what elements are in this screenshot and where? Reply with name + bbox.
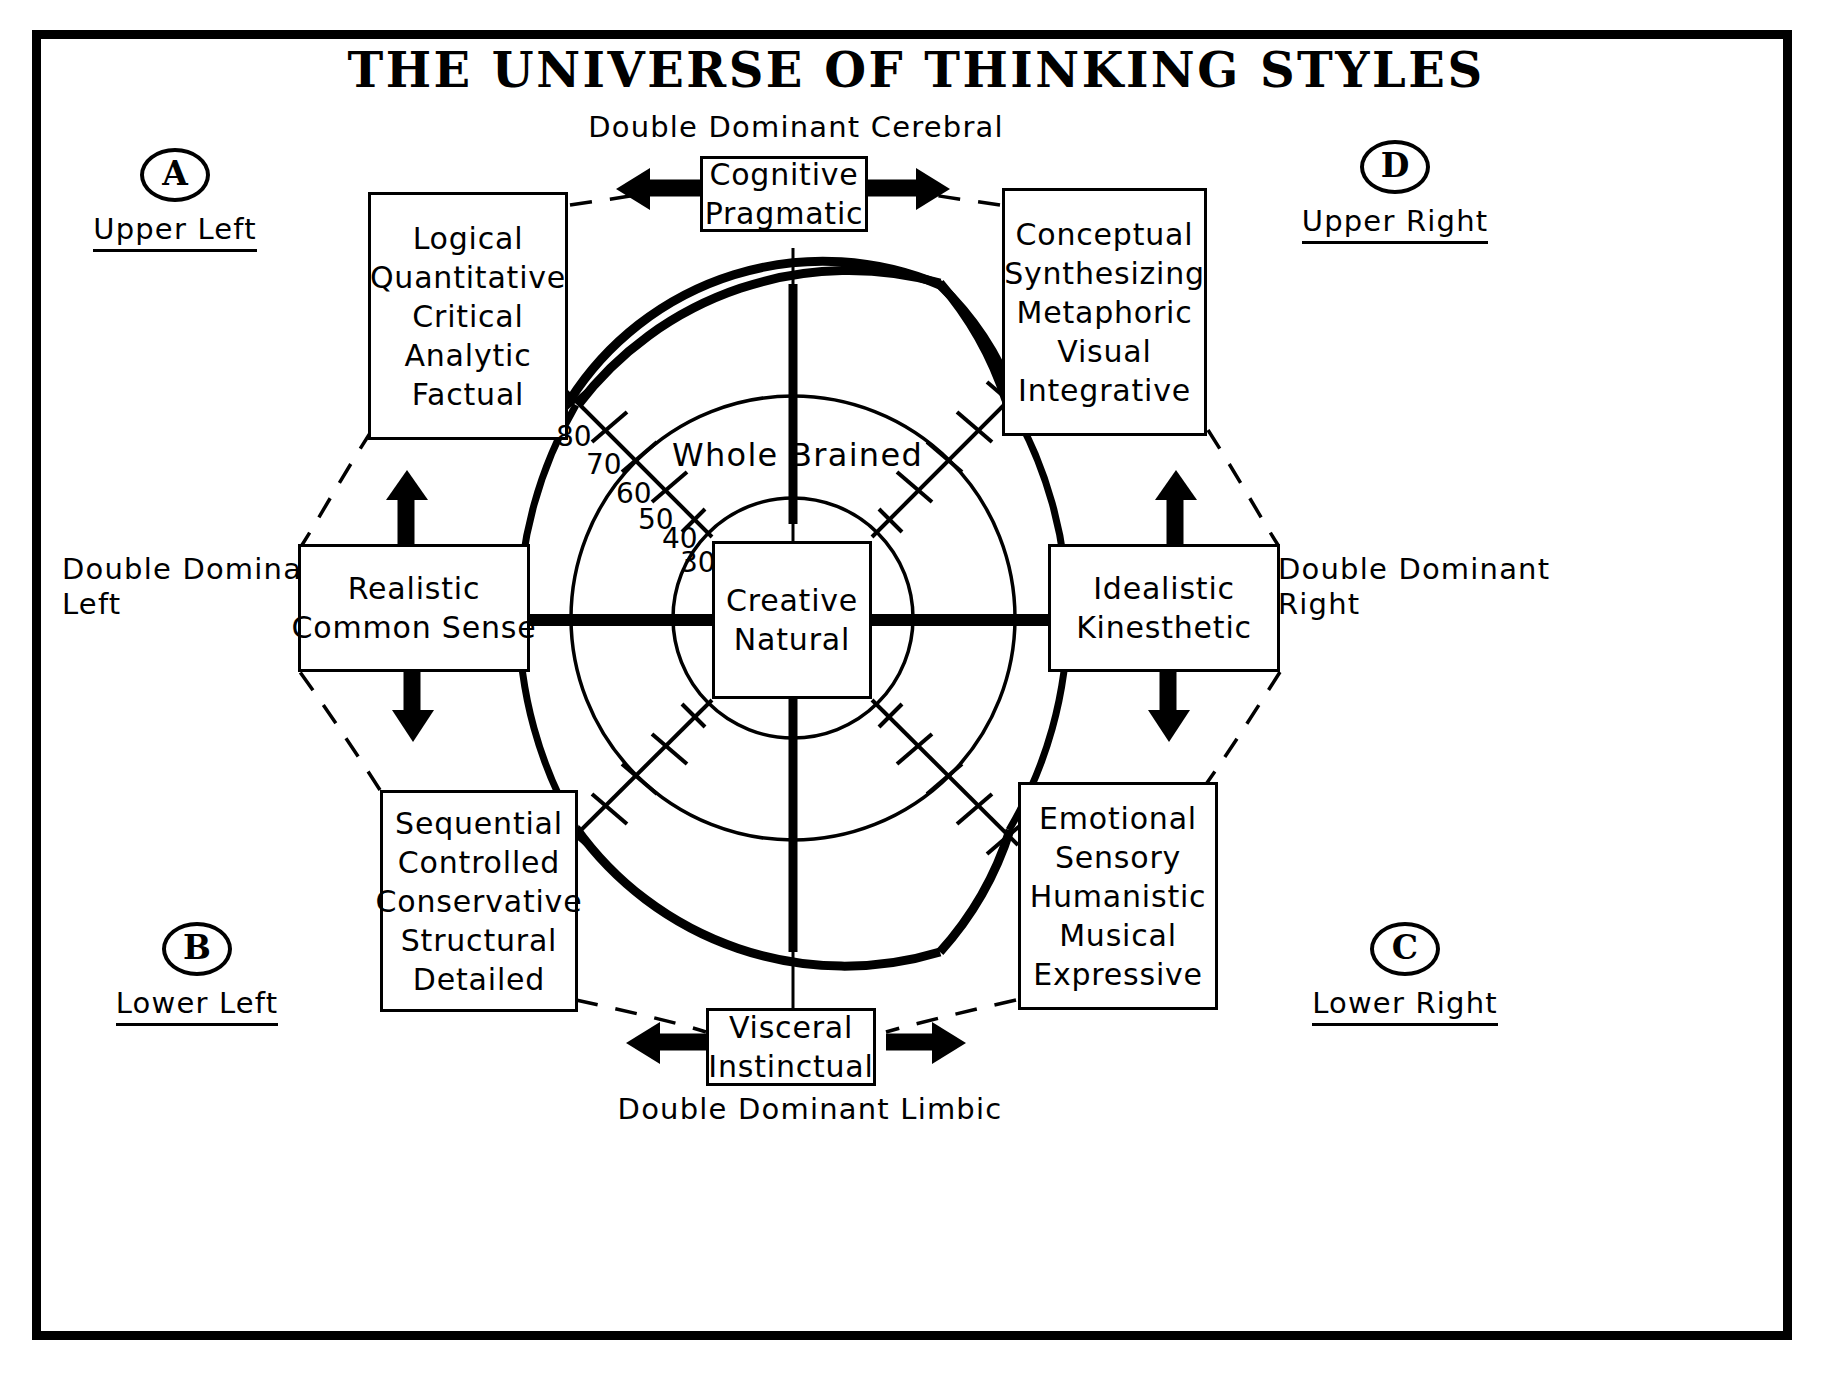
corner-letter-c: C xyxy=(1370,922,1440,976)
quadrant-box-lower-left[interactable]: Sequential Controlled Conservative Struc… xyxy=(380,790,578,1012)
trait-lr-4: Musical xyxy=(1059,916,1177,955)
axis-box-top[interactable]: Cognitive Pragmatic xyxy=(700,156,868,232)
corner-label-a: Upper Left xyxy=(93,212,257,252)
trait-ll-2: Controlled xyxy=(398,843,560,882)
corner-marker-a: A Upper Left xyxy=(60,148,290,252)
axis-box-left[interactable]: Realistic Common Sense xyxy=(298,544,530,672)
corner-marker-d: D Upper Right xyxy=(1280,140,1510,244)
axis-left-trait-2: Common Sense xyxy=(292,608,537,647)
edge-label-right-line2: Right xyxy=(1278,587,1578,622)
trait-ur-5: Integrative xyxy=(1018,371,1191,410)
corner-label-d: Upper Right xyxy=(1302,204,1489,244)
corner-label-c: Lower Right xyxy=(1312,986,1498,1026)
trait-lr-5: Expressive xyxy=(1033,955,1203,994)
trait-lr-2: Sensory xyxy=(1055,838,1181,877)
axis-right-trait-1: Idealistic xyxy=(1093,569,1235,608)
whole-brained-label: Whole Brained xyxy=(672,436,923,474)
trait-lr-1: Emotional xyxy=(1039,799,1197,838)
axis-top-trait-2: Pragmatic xyxy=(705,194,864,233)
axis-left-trait-1: Realistic xyxy=(348,569,480,608)
outer-frame xyxy=(32,30,1792,1340)
trait-ur-2: Synthesizing xyxy=(1004,254,1205,293)
edge-label-right-line1: Double Dominant xyxy=(1278,552,1578,587)
scale-tick-30: 30 xyxy=(680,546,716,579)
trait-ur-3: Metaphoric xyxy=(1016,293,1192,332)
trait-ur-4: Visual xyxy=(1057,332,1151,371)
corner-label-b: Lower Left xyxy=(116,986,279,1026)
axis-box-bottom[interactable]: Visceral Instinctual xyxy=(706,1008,876,1086)
corner-marker-c: C Lower Right xyxy=(1290,922,1520,1026)
quadrant-box-upper-left[interactable]: Logical Quantitative Critical Analytic F… xyxy=(368,192,568,440)
corner-letter-b: B xyxy=(162,922,232,976)
edge-label-bottom: Double Dominant Limbic xyxy=(600,1092,1020,1126)
edge-label-top: Double Dominant Cerebral xyxy=(566,110,1026,144)
trait-ul-2: Quantitative xyxy=(370,258,566,297)
axis-bottom-trait-2: Instinctual xyxy=(708,1047,873,1086)
trait-ul-5: Factual xyxy=(412,375,524,414)
quadrant-box-upper-right[interactable]: Conceptual Synthesizing Metaphoric Visua… xyxy=(1002,188,1207,436)
axis-bottom-trait-1: Visceral xyxy=(729,1008,853,1047)
trait-ll-5: Detailed xyxy=(413,960,545,999)
axis-center-trait-2: Natural xyxy=(734,620,850,659)
trait-ul-1: Logical xyxy=(413,219,524,258)
trait-ul-4: Analytic xyxy=(404,336,531,375)
trait-ll-1: Sequential xyxy=(395,804,563,843)
edge-label-left-line1: Double Dominant xyxy=(62,552,332,587)
axis-box-center[interactable]: Creative Natural xyxy=(712,541,872,699)
corner-letter-a: A xyxy=(140,148,210,202)
axis-center-trait-1: Creative xyxy=(726,581,858,620)
edge-label-right: Double Dominant Right xyxy=(1278,552,1578,623)
corner-marker-b: B Lower Left xyxy=(82,922,312,1026)
trait-ul-3: Critical xyxy=(412,297,523,336)
page-title: THE UNIVERSE OF THINKING STYLES xyxy=(0,42,1832,98)
corner-letter-d: D xyxy=(1360,140,1430,194)
trait-lr-3: Humanistic xyxy=(1030,877,1207,916)
trait-ur-1: Conceptual xyxy=(1016,215,1194,254)
diagram-canvas: THE UNIVERSE OF THINKING STYLES xyxy=(0,0,1832,1375)
axis-box-right[interactable]: Idealistic Kinesthetic xyxy=(1048,544,1280,672)
trait-ll-3: Conservative xyxy=(376,882,583,921)
axis-top-trait-1: Cognitive xyxy=(709,155,858,194)
trait-ll-4: Structural xyxy=(401,921,557,960)
quadrant-box-lower-right[interactable]: Emotional Sensory Humanistic Musical Exp… xyxy=(1018,782,1218,1010)
axis-right-trait-2: Kinesthetic xyxy=(1076,608,1252,647)
